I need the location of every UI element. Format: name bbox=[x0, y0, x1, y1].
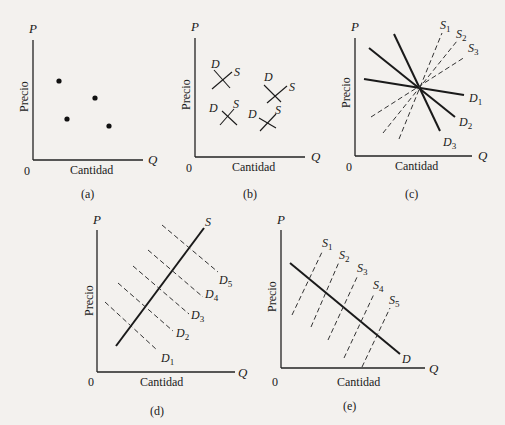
x-axis-title: Cantidad bbox=[337, 375, 380, 389]
panel-c: P Q 0 Cantidad Precio S1 S2 S3 D1 D2 D3 … bbox=[339, 18, 488, 201]
x-axis-title: Cantidad bbox=[395, 159, 438, 173]
x-axis-label: Q bbox=[148, 152, 158, 167]
demand-curve-d2 bbox=[118, 283, 173, 331]
demand-label: D1 bbox=[468, 91, 482, 107]
data-point bbox=[56, 78, 61, 83]
svg-text:D: D bbox=[263, 70, 273, 84]
origin-label: 0 bbox=[24, 164, 30, 178]
demand-supply-pair: D S bbox=[263, 70, 295, 103]
demand-label: D bbox=[401, 352, 411, 366]
supply-curve-s2 bbox=[383, 41, 457, 133]
x-axis-title: Cantidad bbox=[70, 163, 113, 177]
svg-text:D: D bbox=[247, 107, 257, 121]
demand-curve-d5 bbox=[162, 225, 218, 272]
y-axis-label: P bbox=[276, 212, 285, 227]
supply-label: S bbox=[205, 215, 211, 229]
demand-label: D4 bbox=[204, 287, 219, 303]
supply-curve-s3 bbox=[328, 275, 358, 340]
demand-label: D2 bbox=[458, 115, 472, 131]
y-axis-title: Precio bbox=[17, 81, 31, 112]
svg-text:D: D bbox=[210, 57, 220, 71]
demand-curve-d3 bbox=[133, 266, 189, 314]
supply-curve-s4 bbox=[344, 294, 374, 358]
panel-a: P Q 0 Cantidad Precio (a) bbox=[17, 21, 158, 201]
data-point bbox=[106, 123, 111, 128]
demand-curve-d4 bbox=[148, 250, 203, 297]
demand-label: D5 bbox=[218, 273, 233, 289]
svg-text:S: S bbox=[289, 80, 295, 94]
supply-label: S2 bbox=[339, 248, 350, 264]
x-axis-label: Q bbox=[429, 361, 439, 376]
demand-curve-d bbox=[290, 263, 400, 354]
demand-label: D2 bbox=[175, 326, 189, 342]
y-axis-title: Precio bbox=[179, 79, 193, 110]
supply-label: S5 bbox=[389, 293, 400, 309]
origin-label: 0 bbox=[272, 375, 278, 389]
panel-b: P Q 0 Cantidad Precio D S D S D S bbox=[179, 19, 321, 201]
y-axis-title: Precio bbox=[265, 281, 279, 312]
y-axis-title: Precio bbox=[339, 77, 353, 108]
demand-curve-d1 bbox=[364, 79, 464, 95]
supply-label: S1 bbox=[440, 18, 451, 34]
supply-label: S2 bbox=[456, 27, 467, 43]
origin-label: 0 bbox=[88, 375, 94, 389]
demand-label: D3 bbox=[442, 135, 457, 151]
demand-supply-pair: D S bbox=[208, 97, 239, 125]
demand-curve-d1 bbox=[105, 302, 157, 350]
supply-label: S3 bbox=[468, 41, 479, 57]
x-axis-label: Q bbox=[238, 365, 248, 380]
svg-text:S: S bbox=[234, 65, 240, 79]
demand-label: D3 bbox=[190, 308, 205, 324]
supply-curve-s1 bbox=[292, 250, 323, 315]
y-axis-label: P bbox=[190, 19, 199, 34]
x-axis-title: Cantidad bbox=[232, 160, 275, 174]
data-point bbox=[64, 116, 69, 121]
x-axis-label: Q bbox=[478, 148, 488, 163]
supply-curve-s5 bbox=[362, 308, 390, 367]
supply-label: S3 bbox=[357, 261, 368, 277]
supply-curve-s2 bbox=[311, 262, 339, 327]
panel-caption: (b) bbox=[243, 187, 257, 201]
svg-text:S: S bbox=[275, 103, 281, 117]
svg-text:S: S bbox=[233, 97, 239, 111]
demand-curve-d3 bbox=[394, 34, 440, 131]
panel-caption: (a) bbox=[81, 187, 94, 201]
demand-label: D1 bbox=[160, 351, 174, 367]
origin-label: 0 bbox=[346, 160, 352, 174]
supply-label: S4 bbox=[373, 278, 384, 294]
demand-supply-pair: D S bbox=[210, 57, 240, 89]
y-axis-label: P bbox=[28, 21, 37, 36]
demand-supply-pair: D S bbox=[247, 103, 281, 131]
y-axis-label: P bbox=[92, 212, 101, 227]
panel-caption: (e) bbox=[343, 399, 356, 413]
data-point bbox=[92, 95, 97, 100]
svg-text:D: D bbox=[208, 101, 218, 115]
panel-caption: (d) bbox=[150, 404, 164, 418]
y-axis-title: Precio bbox=[82, 285, 96, 316]
x-axis-label: Q bbox=[311, 149, 321, 164]
panel-e: P Q 0 Cantidad Precio D S1 S2 S3 S4 S5 (… bbox=[265, 212, 439, 413]
y-axis-label: P bbox=[350, 19, 359, 34]
origin-label: 0 bbox=[186, 161, 192, 175]
panel-caption: (c) bbox=[405, 187, 418, 201]
panel-d: P Q 0 Cantidad Precio S D1 D2 D3 D4 D5 (… bbox=[82, 212, 248, 418]
supply-label: S1 bbox=[322, 236, 333, 252]
x-axis-title: Cantidad bbox=[140, 375, 183, 389]
